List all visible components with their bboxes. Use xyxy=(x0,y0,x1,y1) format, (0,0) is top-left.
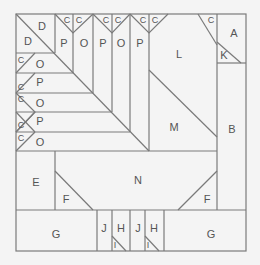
label-l: L xyxy=(176,48,182,60)
label-d-top: D xyxy=(38,20,46,32)
label-p: P xyxy=(136,37,143,49)
label-e: E xyxy=(32,176,39,188)
label-h: H xyxy=(117,222,125,234)
label-c: C xyxy=(103,15,110,25)
label-i: I xyxy=(114,240,117,250)
label-c: C xyxy=(18,94,25,104)
label-o: O xyxy=(36,97,45,109)
label-o: O xyxy=(36,136,45,148)
label-i: I xyxy=(147,240,150,250)
label-o: O xyxy=(80,37,89,49)
label-k: K xyxy=(220,49,228,61)
label-b: B xyxy=(228,123,235,135)
label-g-left: G xyxy=(52,228,61,240)
label-f-right: F xyxy=(204,193,211,205)
label-c: C xyxy=(18,120,25,130)
label-o: O xyxy=(117,37,126,49)
label-f-left: F xyxy=(63,193,70,205)
label-c: C xyxy=(140,15,147,25)
label-c: C xyxy=(18,133,25,143)
label-c: C xyxy=(76,15,83,25)
quilt-block-diagram: D D P O P O P C C C C C C C C O C P C O … xyxy=(0,0,260,265)
label-c: C xyxy=(152,15,159,25)
label-c: C xyxy=(64,15,71,25)
label-j: J xyxy=(101,222,107,234)
label-c: C xyxy=(208,15,215,25)
label-c: C xyxy=(115,15,122,25)
label-c: C xyxy=(18,82,25,92)
label-d-bottom: D xyxy=(24,35,32,47)
label-p: P xyxy=(60,37,67,49)
label-p: P xyxy=(36,76,43,88)
label-a: A xyxy=(230,27,238,39)
label-c: C xyxy=(18,55,25,65)
label-n: N xyxy=(134,174,142,186)
label-p: P xyxy=(36,115,43,127)
label-m: M xyxy=(169,121,178,133)
label-o: O xyxy=(36,58,45,70)
label-p: P xyxy=(99,37,106,49)
label-j: J xyxy=(135,222,141,234)
label-g-right: G xyxy=(207,228,216,240)
label-h: H xyxy=(150,222,158,234)
